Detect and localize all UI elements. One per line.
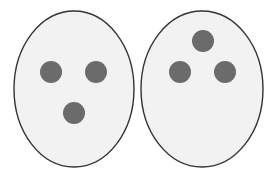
diagram-canvas	[0, 0, 279, 182]
dot-left-1	[40, 61, 62, 83]
oval-group-right	[141, 11, 263, 167]
two-ovals-diagram	[0, 0, 279, 182]
dot-right-3	[214, 61, 236, 83]
dot-left-2	[85, 61, 107, 83]
oval-left	[14, 11, 134, 167]
dot-right-2	[169, 61, 191, 83]
dot-left-3	[63, 102, 85, 124]
dot-right-1	[192, 30, 214, 52]
oval-group-left	[14, 11, 134, 167]
